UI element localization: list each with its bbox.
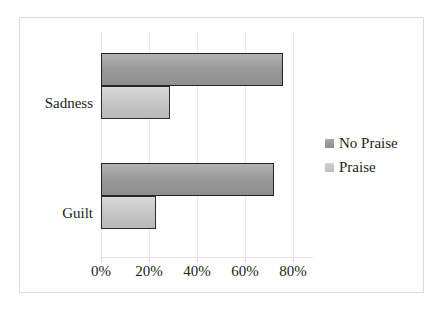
x-axis-tick-label-20: 20% <box>135 264 163 279</box>
chart-frame: 0% 20% 40% 60% 80% Sadness Guilt No Prai… <box>19 17 424 293</box>
bar-guilt-no-praise <box>101 163 274 196</box>
x-axis-tick-0 <box>101 257 102 262</box>
legend-item-praise: Praise <box>325 160 420 175</box>
legend-label-no-praise: No Praise <box>339 136 398 151</box>
x-axis-tick-label-60: 60% <box>231 264 259 279</box>
x-axis-line <box>101 257 313 258</box>
x-axis-tick-80 <box>293 257 294 262</box>
x-axis-tick-20 <box>149 257 150 262</box>
chart-legend: No Praise Praise <box>325 136 420 184</box>
bar-guilt-praise <box>101 196 156 229</box>
x-axis-tick-label-80: 80% <box>279 264 307 279</box>
x-axis-tick-label-40: 40% <box>183 264 211 279</box>
plot-area: Sadness Guilt <box>101 31 313 257</box>
legend-label-praise: Praise <box>339 160 376 175</box>
bar-sadness-praise <box>101 86 170 119</box>
x-axis-tick-40 <box>197 257 198 262</box>
x-axis-tick-label-0: 0% <box>91 264 111 279</box>
legend-swatch-praise-icon <box>325 163 334 172</box>
legend-swatch-no-praise-icon <box>325 139 334 148</box>
category-label-sadness: Sadness <box>45 96 93 111</box>
category-label-guilt: Guilt <box>62 206 93 221</box>
legend-item-no-praise: No Praise <box>325 136 420 151</box>
bar-sadness-no-praise <box>101 53 283 86</box>
gridline-80 <box>293 31 294 257</box>
x-axis-tick-60 <box>245 257 246 262</box>
